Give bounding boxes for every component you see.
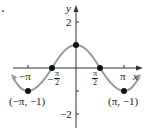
neg-sign: − <box>47 74 53 85</box>
x-tick-label-half-pi: π 2 <box>92 70 98 87</box>
x-tick-label-pi: π <box>120 71 126 82</box>
x-tick-label-neg-half-pi: π 2 <box>54 70 60 87</box>
point-peak <box>73 42 79 48</box>
point-label-right: (π, −1) <box>108 96 138 107</box>
problem-marker <box>2 10 4 12</box>
point-pi <box>121 88 127 94</box>
frac-denominator: 2 <box>92 79 98 87</box>
frac-denominator: 2 <box>54 79 60 87</box>
cosine-graph: y x 2 −2 −π π − π 2 π 2 (−π, −1) (π, −1) <box>0 0 147 132</box>
y-tick-label-neg2: −2 <box>60 109 72 120</box>
y-tick-label-2: 2 <box>66 17 72 28</box>
y-axis-arrow-icon <box>74 5 79 12</box>
point-label-left: (−π, −1) <box>9 96 45 107</box>
point-neg-pi <box>25 88 31 94</box>
curve-left-arrow-icon <box>11 74 17 81</box>
y-axis-label: y <box>66 3 71 14</box>
x-tick-label-neg-pi: −π <box>19 71 31 82</box>
plot-area <box>0 0 147 132</box>
x-axis-label: x <box>133 71 138 82</box>
